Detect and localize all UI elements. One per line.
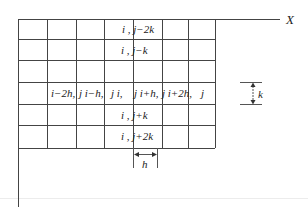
node-label-j-minus-2k: i , j−2k <box>122 23 155 35</box>
node-label-j-minus-k: i , j−k <box>121 44 149 56</box>
row-label-e: j i+2h, <box>160 87 192 99</box>
arrow-right-icon <box>152 152 157 157</box>
row-label-a: i−2h, <box>51 87 75 99</box>
h-label: h <box>142 158 148 170</box>
grid-diagram: X Y i , j−2k i , j−k i , j+k i , j+2k i−… <box>0 0 308 209</box>
row-label-c: j i, <box>109 87 123 99</box>
row-label-d: j i+h, <box>132 87 159 99</box>
arrow-left-icon <box>134 152 139 157</box>
k-label: k <box>258 88 264 100</box>
row-label-f: j <box>199 87 204 99</box>
grid-lines <box>18 19 280 207</box>
y-axis-label: Y <box>13 206 22 209</box>
row-label-b: j i−h, <box>77 87 104 99</box>
node-label-j-plus-k: i , j+k <box>121 109 149 121</box>
arrow-down-icon <box>251 100 256 105</box>
arrow-up-icon <box>251 83 256 88</box>
node-label-j-plus-2k: i , j+2k <box>121 130 154 142</box>
x-axis-label: X <box>285 12 295 27</box>
